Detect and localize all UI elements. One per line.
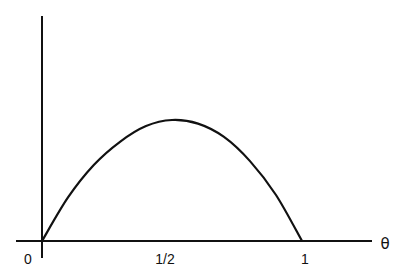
tick-label-1: 1 — [301, 251, 309, 267]
tick-label-half: 1/2 — [155, 251, 175, 267]
chart-canvas: 0 1/2 1 θ — [0, 0, 409, 279]
curve-line — [42, 120, 302, 241]
tick-label-0: 0 — [24, 251, 32, 267]
x-axis-label-theta: θ — [380, 235, 389, 253]
